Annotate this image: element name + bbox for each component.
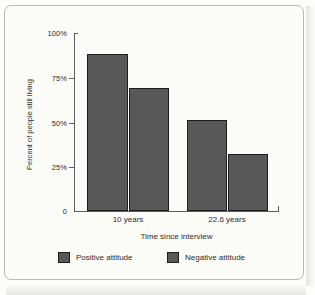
y-tick-label-0: 0: [63, 207, 67, 216]
legend-swatch-icon-positive: [58, 252, 70, 263]
x-axis-right-cap: [278, 206, 279, 212]
scanned-page: 100% 75% 50% 25% 0 Percent of people sti…: [0, 0, 315, 295]
y-tick-50: [69, 123, 74, 124]
legend-item-negative-attitude: Negative attitude: [167, 252, 245, 263]
y-axis-top-cap: [74, 33, 78, 34]
bar-positive-10-years: [87, 54, 128, 211]
x-axis-title: Time since interview: [74, 232, 279, 241]
bar-negative-10-years: [129, 88, 169, 211]
legend-swatch-icon-negative: [167, 252, 179, 263]
y-tick-25: [69, 167, 74, 168]
x-tick-label-10-years: 10 years: [78, 215, 178, 224]
legend-label-positive: Positive attitude: [76, 253, 132, 262]
y-tick-label-50: 50%: [52, 119, 67, 128]
legend-item-positive-attitude: Positive attitude: [58, 252, 132, 263]
bar-positive-22-6-years: [187, 120, 227, 211]
bar-negative-22-6-years: [228, 154, 268, 211]
y-tick-label-75: 75%: [52, 74, 67, 83]
y-tick-75: [69, 78, 74, 79]
legend-label-negative: Negative attitude: [185, 253, 245, 262]
chart-legend: Positive attitude Negative attitude: [55, 252, 270, 270]
y-tick-label-100: 100%: [47, 29, 67, 38]
y-tick-label-25: 25%: [52, 163, 67, 172]
y-axis-title: Percent of people still living: [25, 65, 34, 185]
x-tick-label-22-6-years: 22.6 years: [177, 215, 277, 224]
bar-chart: 100% 75% 50% 25% 0 Percent of people sti…: [0, 0, 315, 295]
x-axis-line: [74, 211, 279, 212]
y-axis-line: [74, 33, 75, 212]
